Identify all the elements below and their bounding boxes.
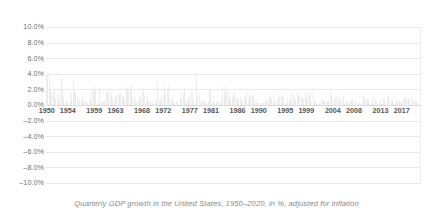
x-axis-tick-label: 2013	[373, 107, 389, 114]
y-axis: 10.0%8.0%6.0%4.0%2.0%0.0%–2.0%–4.0%–6.0%…	[0, 27, 44, 183]
right-axis-rule	[420, 27, 421, 183]
x-axis-tick-label: 1968	[134, 107, 150, 114]
x-axis-tick-label: 1972	[155, 107, 171, 114]
x-axis-tick-label: 1995	[277, 107, 293, 114]
y-axis-tick-label: –10.0%	[2, 179, 44, 186]
y-axis-tick-label: –8.0%	[2, 164, 44, 171]
x-axis-tick-label: 1963	[108, 107, 124, 114]
gridline	[46, 183, 421, 184]
x-axis-tick-label: 2017	[394, 107, 410, 114]
x-axis-tick-label: 2008	[346, 107, 362, 114]
x-axis-tick-label: 1990	[251, 107, 267, 114]
bar-series	[46, 27, 421, 183]
x-axis-tick-label: 1954	[60, 107, 76, 114]
x-axis: 1950195419591963196819721977198119861990…	[46, 107, 421, 118]
y-axis-tick-label: 4.0%	[2, 70, 44, 77]
y-axis-tick-label: 2.0%	[2, 86, 44, 93]
bar	[313, 90, 314, 105]
x-axis-tick-label: 1977	[182, 107, 198, 114]
gdp-growth-chart-figure: 10.0%8.0%6.0%4.0%2.0%0.0%–2.0%–4.0%–6.0%…	[0, 0, 433, 223]
x-axis-tick-label: 1981	[203, 107, 219, 114]
y-axis-tick-label: –6.0%	[2, 148, 44, 155]
y-axis-tick-label: 8.0%	[2, 39, 44, 46]
plot-area	[46, 27, 421, 183]
y-axis-tick-label: 6.0%	[2, 55, 44, 62]
x-axis-tick-label: 2004	[325, 107, 341, 114]
x-axis-tick-label: 1999	[298, 107, 314, 114]
y-axis-tick-label: –4.0%	[2, 133, 44, 140]
x-axis-tick-label: 1950	[39, 107, 55, 114]
chart-caption: Quarterly GDP growth in the United State…	[0, 200, 433, 208]
y-axis-tick-label: –2.0%	[2, 117, 44, 124]
x-axis-tick-label: 1959	[86, 107, 102, 114]
y-axis-tick-label: 10.0%	[2, 23, 44, 30]
x-axis-tick-label: 1986	[229, 107, 245, 114]
